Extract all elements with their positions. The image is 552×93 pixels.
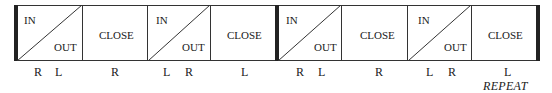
- cell-1-in-label: IN: [24, 15, 36, 26]
- cell-1-out-label: OUT: [54, 42, 77, 53]
- foot-label: R: [296, 66, 304, 78]
- foot-label: R: [111, 66, 119, 78]
- cell-7-in-label: IN: [418, 15, 430, 26]
- cell-3-out-label: OUT: [182, 42, 205, 53]
- cell-8-close-label: CLOSE: [488, 30, 523, 41]
- cell-5-out-label: OUT: [314, 42, 337, 53]
- cell-6-close-label: CLOSE: [360, 30, 395, 41]
- measure-bar-right: [536, 5, 540, 61]
- step-diagram: IN OUT CLOSE IN OUT CLOSE IN OUT CLOSE I…: [14, 5, 540, 61]
- cell-3-in-label: IN: [156, 15, 168, 26]
- foot-label: R: [448, 66, 456, 78]
- measure-bar-left: [14, 5, 18, 61]
- foot-label: R: [375, 66, 383, 78]
- foot-label: L: [163, 66, 170, 78]
- repeat-note: REPEAT: [483, 79, 528, 93]
- foot-label: L: [241, 66, 248, 78]
- foot-label: R: [185, 66, 193, 78]
- foot-label: L: [426, 66, 433, 78]
- foot-label: R: [34, 66, 42, 78]
- foot-label: L: [504, 66, 511, 78]
- cell-2-close-label: CLOSE: [99, 30, 134, 41]
- measure-bar-middle: [275, 5, 279, 61]
- foot-label: L: [318, 66, 325, 78]
- cell-7-out-label: OUT: [444, 42, 467, 53]
- cell-4-close-label: CLOSE: [227, 30, 262, 41]
- foot-label: L: [55, 66, 62, 78]
- cell-5-in-label: IN: [286, 15, 298, 26]
